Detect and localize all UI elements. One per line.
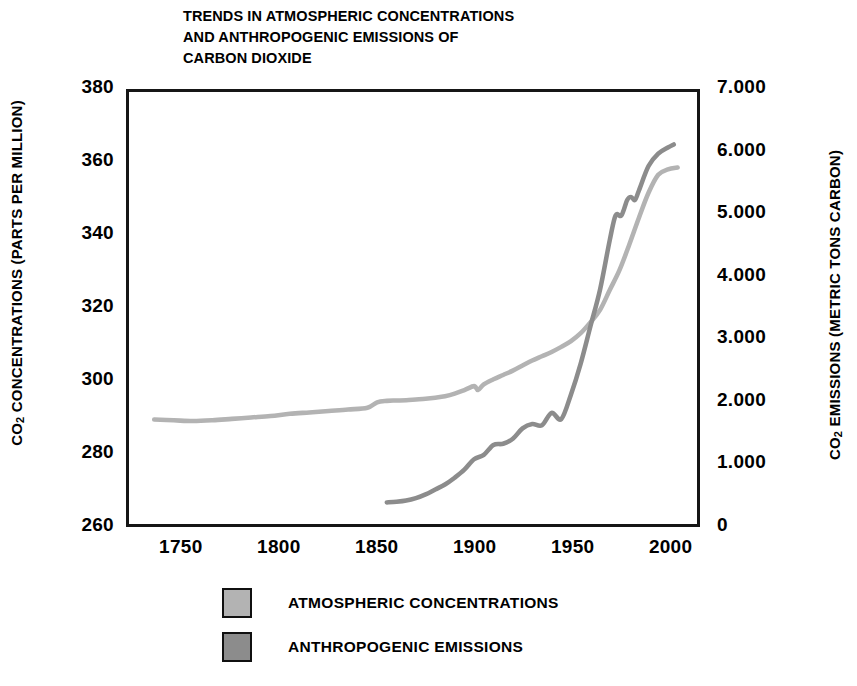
y-axis-right-tick-label: 0 <box>717 514 797 536</box>
y-axis-right-tick-label: 7.000 <box>717 76 797 98</box>
y-axis-right-tick-label: 2.000 <box>717 389 797 411</box>
y-axis-right-title-subscript: 2 <box>832 431 844 437</box>
y-axis-left-title-pre: CO <box>8 422 25 445</box>
y-axis-left-tick-label: 280 <box>54 441 114 463</box>
y-axis-right-title: CO2 EMISSIONS (METRIC TONS CARBON) <box>818 60 852 550</box>
legend-item: ANTHROPOGENIC EMISSIONS <box>222 627 559 667</box>
y-axis-right-title-pre: CO <box>826 437 843 460</box>
y-axis-left-title-post: CONCENTRATIONS (PARTS PER MILLION) <box>8 100 25 416</box>
x-axis-tick-label: 1850 <box>337 536 417 558</box>
title-line-2: AND ANTHROPOGENIC EMISSIONS OF <box>183 27 603 48</box>
title-line-1: TRENDS IN ATMOSPHERIC CONCENTRATIONS <box>183 6 603 27</box>
y-axis-right-tick-label: 3.000 <box>717 326 797 348</box>
legend-label: ATMOSPHERIC CONCENTRATIONS <box>288 594 559 612</box>
y-axis-right-title-post: EMISSIONS (METRIC TONS CARBON) <box>826 150 843 431</box>
series-line-anthropogenic-emissions <box>387 144 674 502</box>
y-axis-right-tick-label: 4.000 <box>717 264 797 286</box>
y-axis-left-tick-label: 380 <box>54 76 114 98</box>
legend-item: ATMOSPHERIC CONCENTRATIONS <box>222 583 559 623</box>
x-axis-tick-label: 2000 <box>631 536 711 558</box>
y-axis-left-tick-label: 320 <box>54 295 114 317</box>
page-title: TRENDS IN ATMOSPHERIC CONCENTRATIONS AND… <box>183 6 603 69</box>
plot-area <box>126 89 700 527</box>
y-axis-left-tick-label: 340 <box>54 222 114 244</box>
y-axis-left-title: CO2 CONCENTRATIONS (PARTS PER MILLION) <box>0 0 34 545</box>
x-axis-tick-label: 1750 <box>141 536 221 558</box>
y-axis-left-tick-label: 300 <box>54 368 114 390</box>
legend-swatch <box>222 632 252 662</box>
y-axis-left-tick-label: 260 <box>54 514 114 536</box>
y-axis-left-title-subscript: 2 <box>14 416 26 422</box>
plot-svg <box>129 92 697 524</box>
title-line-3: CARBON DIOXIDE <box>183 48 603 69</box>
legend: ATMOSPHERIC CONCENTRATIONSANTHROPOGENIC … <box>222 583 559 671</box>
y-axis-right-tick-label: 5.000 <box>717 201 797 223</box>
y-axis-left-tick-label: 360 <box>54 149 114 171</box>
legend-swatch <box>222 588 252 618</box>
y-axis-right-tick-label: 1.000 <box>717 451 797 473</box>
x-axis-tick-label: 1800 <box>239 536 319 558</box>
legend-label: ANTHROPOGENIC EMISSIONS <box>288 638 523 656</box>
y-axis-right-tick-label: 6.000 <box>717 139 797 161</box>
x-axis-tick-label: 1900 <box>435 536 515 558</box>
x-axis-tick-label: 1950 <box>533 536 613 558</box>
